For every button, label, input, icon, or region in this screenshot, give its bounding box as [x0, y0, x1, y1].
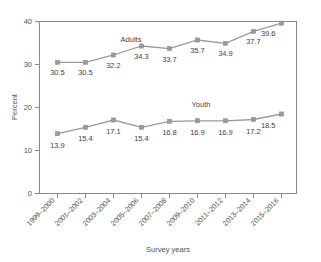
x-tick-labels: 1999–2000 2001–2002 2003–2004 2005–2006 …: [25, 196, 281, 228]
data-point-marker: [251, 117, 255, 121]
series-adults: 30.530.532.234.333.735.734.937.739.6: [50, 21, 283, 77]
x-axis-title: Survey years: [146, 245, 190, 254]
y-tick-label-20: 20: [24, 103, 32, 112]
data-point-marker: [195, 119, 199, 123]
data-label: 39.6: [261, 29, 276, 38]
y-tick-label-30: 30: [24, 60, 32, 69]
data-point-marker: [279, 112, 283, 116]
data-label: 15.4: [134, 134, 149, 143]
data-label: 37.7: [246, 37, 261, 46]
data-label: 15.4: [78, 134, 93, 143]
data-label: 30.5: [50, 68, 65, 77]
y-tick-marks: [35, 22, 40, 194]
x-tick-label-2: 2003–2004: [81, 196, 113, 228]
data-label: 34.9: [218, 49, 233, 58]
data-label: 18.5: [261, 121, 276, 130]
x-tick-marks: [58, 194, 282, 199]
data-point-marker: [139, 44, 143, 48]
x-tick-label-7: 2013–2014: [221, 196, 253, 228]
data-label: 32.2: [106, 61, 121, 70]
data-point-marker: [111, 118, 115, 122]
data-label: 34.3: [134, 52, 149, 61]
data-label: 13.9: [50, 141, 65, 150]
data-point-marker: [83, 125, 87, 129]
y-axis-title: Percent: [10, 93, 19, 120]
x-tick-label-0: 1999–2000: [25, 196, 57, 228]
x-tick-label-8: 2015–2016: [249, 196, 281, 228]
y-tick-label-0: 0: [28, 189, 32, 198]
line-chart: 40 30 20 10 0 Percent 1999–2000 2001–200…: [0, 0, 321, 262]
data-point-marker: [139, 125, 143, 129]
series-youth: 13.915.417.115.416.816.916.917.218.5: [50, 112, 283, 150]
x-tick-label-3: 2005–2006: [109, 196, 141, 228]
data-point-marker: [279, 21, 283, 25]
data-label: 17.1: [106, 127, 121, 136]
data-point-marker: [55, 60, 59, 64]
data-label: 16.9: [190, 128, 205, 137]
data-point-marker: [223, 41, 227, 45]
data-point-marker: [55, 132, 59, 136]
y-tick-label-40: 40: [24, 17, 32, 26]
series-label-adults: Adults: [121, 35, 142, 44]
data-label: 33.7: [162, 55, 177, 64]
series-label-youth: Youth: [192, 100, 211, 109]
x-tick-label-4: 2007–2008: [137, 196, 169, 228]
data-label: 16.9: [218, 128, 233, 137]
data-point-marker: [223, 119, 227, 123]
data-point-marker: [167, 119, 171, 123]
data-point-marker: [167, 47, 171, 51]
y-tick-label-10: 10: [24, 146, 32, 155]
data-label: 35.7: [190, 46, 205, 55]
x-tick-label-5: 2009–2010: [165, 196, 197, 228]
data-point-marker: [83, 60, 87, 64]
data-label: 16.8: [162, 128, 177, 137]
data-label: 17.2: [246, 127, 261, 136]
x-tick-label-1: 2001–2002: [53, 196, 85, 228]
data-point-marker: [195, 38, 199, 42]
data-point-marker: [111, 53, 115, 57]
data-label: 30.5: [78, 68, 93, 77]
chart-canvas: 40 30 20 10 0 Percent 1999–2000 2001–200…: [0, 0, 321, 262]
series-layer: 30.530.532.234.333.735.734.937.739.613.9…: [50, 21, 283, 150]
x-tick-label-6: 2011–2012: [193, 196, 224, 227]
y-tick-labels: 40 30 20 10 0: [24, 17, 32, 198]
data-point-marker: [251, 29, 255, 33]
